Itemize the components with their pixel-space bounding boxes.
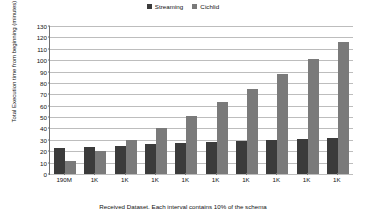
bar-cichlid [277,74,288,174]
x-axis-title: Received Dataset. Each interval contains… [0,203,366,211]
bar-chart: Streaming Cichlid Total Execution time f… [0,0,366,214]
plot-area: 0102030405060708090100110120130 [49,26,353,175]
y-tick-label: 50 [40,114,47,121]
x-tick-text: 1K [272,176,280,183]
x-tick-label: 1K [170,175,200,187]
y-tick-label: 40 [40,125,47,132]
x-tick-text: 1K [91,176,99,183]
bar-streaming [115,146,126,174]
y-axis-title: Total Execution time from beginning (min… [11,0,18,132]
bar-streaming [236,141,247,174]
x-tick-label: 1K [79,175,109,187]
y-tick-label: 20 [40,148,47,155]
bar-group [80,26,110,174]
bar-cichlid [338,42,349,174]
bar-group [201,26,231,174]
x-tick-text: 190M [56,176,71,183]
x-tick-mark [155,173,156,175]
x-tick-text: 1K [303,176,311,183]
chart-legend: Streaming Cichlid [0,3,366,10]
bars-layer [50,26,353,174]
x-tick-mark [337,173,338,175]
bar-cichlid [126,140,137,174]
bar-streaming [175,143,186,174]
x-tick-label: 1K [140,175,170,187]
x-tick-label: 1K [200,175,230,187]
bar-group [262,26,292,174]
y-tick-label: 120 [37,34,47,41]
x-tick-mark [276,173,277,175]
bar-group [141,26,171,174]
legend-entry-cichlid: Cichlid [192,3,219,10]
bar-streaming [54,148,65,174]
legend-swatch-cichlid [192,4,197,9]
x-tick-text: 1K [333,176,341,183]
bar-streaming [266,140,277,174]
legend-entry-streaming: Streaming [147,3,184,10]
bar-cichlid [247,89,258,174]
x-tick-mark [185,173,186,175]
x-tick-text: 1K [121,176,129,183]
y-tick-label: 100 [37,57,47,64]
x-tick-text: 1K [212,176,220,183]
legend-label-streaming: Streaming [155,3,184,10]
x-tick-mark [64,173,65,175]
x-tick-label: 1K [110,175,140,187]
bar-group [323,26,353,174]
y-tick-label: 70 [40,91,47,98]
x-tick-mark [216,173,217,175]
x-tick-mark [94,173,95,175]
y-tick-label: 30 [40,136,47,143]
y-tick-label: 110 [37,45,47,52]
bar-streaming [145,144,156,174]
x-tick-label: 1K [261,175,291,187]
bar-cichlid [217,102,228,174]
bar-group [50,26,80,174]
legend-label-cichlid: Cichlid [200,3,219,10]
bar-group [111,26,141,174]
bar-cichlid [95,151,106,174]
x-tick-label: 1K [322,175,352,187]
x-tick-mark [125,173,126,175]
x-axis-tick-labels: 190M1K1K1K1K1K1K1K1K1K [49,175,352,187]
bar-streaming [327,138,338,174]
x-tick-label: 1K [231,175,261,187]
bar-streaming [206,142,217,174]
bar-group [292,26,322,174]
bar-streaming [84,147,95,174]
bar-cichlid [156,128,167,174]
y-tick-label: 0 [44,171,47,178]
x-tick-mark [307,173,308,175]
x-tick-text: 1K [182,176,190,183]
bar-group [232,26,262,174]
y-tick-label: 60 [40,102,47,109]
y-tick-label: 10 [40,159,47,166]
y-tick-label: 130 [37,23,47,30]
bar-streaming [297,139,308,174]
bar-cichlid [65,161,76,174]
bar-cichlid [186,116,197,174]
y-tick-label: 80 [40,79,47,86]
x-tick-text: 1K [151,176,159,183]
x-tick-text: 1K [242,176,250,183]
bar-cichlid [308,59,319,174]
legend-swatch-streaming [147,4,152,9]
x-tick-mark [246,173,247,175]
x-tick-label: 1K [291,175,321,187]
bar-group [171,26,201,174]
y-tick-label: 90 [40,68,47,75]
x-tick-label: 190M [49,175,79,187]
